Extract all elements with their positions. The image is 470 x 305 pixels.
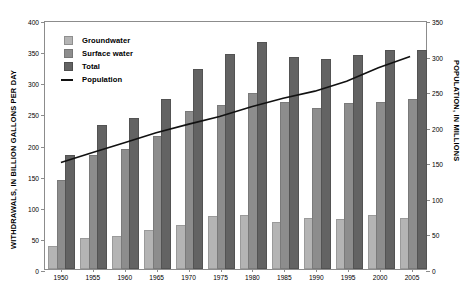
y-tick-right — [426, 164, 430, 165]
y-tick-label-left: 50 — [32, 236, 39, 243]
x-tick-label: 2005 — [405, 274, 420, 281]
y-axis-left-title: WITHDRAWALS, IN BILLION GALLONS PER DAY — [9, 70, 18, 249]
x-tick-label: 1975 — [213, 274, 228, 281]
x-tick-label: 1985 — [277, 274, 292, 281]
x-tick — [157, 269, 158, 272]
x-tick-label: 1965 — [149, 274, 164, 281]
x-tick — [252, 269, 253, 272]
y-tick-right — [426, 235, 430, 236]
legend-swatch-icon — [64, 62, 73, 71]
y-tick-label-right: 350 — [432, 19, 443, 26]
y-axis-right-title: POPULATION, IN MILLIONS — [452, 60, 461, 161]
y-tick-label-right: 50 — [432, 232, 439, 239]
x-tick — [284, 269, 285, 272]
y-tick-right — [426, 200, 430, 201]
y-tick-right — [426, 271, 430, 272]
x-tick — [221, 269, 222, 272]
y-tick-label-right: 150 — [432, 161, 443, 168]
x-tick-label: 1995 — [341, 274, 356, 281]
y-tick-label-left: 0 — [35, 268, 39, 275]
legend-swatch-icon — [64, 49, 73, 58]
x-tick — [93, 269, 94, 272]
x-tick-label: 1990 — [309, 274, 324, 281]
y-tick-label-right: 300 — [432, 54, 443, 61]
x-tick-label: 1980 — [245, 274, 260, 281]
y-tick-label-right: 100 — [432, 196, 443, 203]
y-tick-label-left: 150 — [28, 174, 39, 181]
x-tick — [348, 269, 349, 272]
x-tick — [412, 269, 413, 272]
y-tick-label-left: 400 — [28, 19, 39, 26]
x-tick — [125, 269, 126, 272]
y-tick-label-left: 250 — [28, 112, 39, 119]
y-tick-right — [426, 58, 430, 59]
legend-item-groundwater: Groundwater — [64, 34, 133, 47]
x-tick — [61, 269, 62, 272]
legend-item-population: Population — [64, 73, 133, 86]
x-tick-label: 2000 — [373, 274, 388, 281]
x-tick-label: 1960 — [117, 274, 132, 281]
x-tick-label: 1970 — [181, 274, 196, 281]
chart-legend: GroundwaterSurface waterTotalPopulation — [64, 34, 133, 86]
plot-area: 050100150200250300350400 050100150200250… — [44, 21, 427, 270]
legend-label: Population — [82, 75, 122, 84]
x-tick-label: 1955 — [86, 274, 101, 281]
y-tick-left — [41, 271, 45, 272]
x-tick — [189, 269, 190, 272]
y-tick-right — [426, 129, 430, 130]
y-tick-label-right: 200 — [432, 125, 443, 132]
y-tick-label-right: 250 — [432, 90, 443, 97]
y-tick-label-left: 350 — [28, 50, 39, 57]
y-tick-label-right: 0 — [432, 268, 436, 275]
legend-swatch-icon — [64, 36, 73, 45]
y-tick-right — [426, 22, 430, 23]
figure: WITHDRAWALS, IN BILLION GALLONS PER DAY … — [0, 0, 470, 305]
y-tick-label-left: 100 — [28, 205, 39, 212]
legend-item-surface-water: Surface water — [64, 47, 133, 60]
x-tick-label: 1950 — [54, 274, 69, 281]
legend-label: Groundwater — [82, 36, 130, 45]
legend-label: Surface water — [82, 49, 133, 58]
x-tick — [316, 269, 317, 272]
legend-label: Total — [82, 62, 100, 71]
y-tick-label-left: 300 — [28, 81, 39, 88]
x-tick — [380, 269, 381, 272]
legend-line-icon — [64, 79, 73, 81]
y-tick-label-left: 200 — [28, 143, 39, 150]
y-tick-right — [426, 93, 430, 94]
legend-item-total: Total — [64, 60, 133, 73]
